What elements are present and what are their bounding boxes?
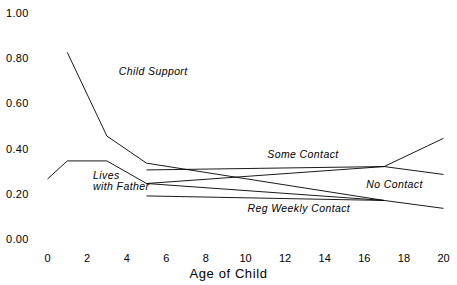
x-tick-label: 4: [124, 252, 130, 264]
y-tick-label: 0.80: [6, 52, 29, 64]
y-tick-label: 1.00: [6, 7, 29, 19]
x-tick-label: 6: [163, 252, 169, 264]
x-tick-label: 0: [44, 252, 50, 264]
chart-plot-area: [0, 0, 457, 285]
series-annotation: Lives: [93, 169, 120, 181]
x-tick-label: 14: [319, 252, 331, 264]
y-tick-label: 0.60: [6, 97, 29, 109]
series-annotation: with Father: [93, 180, 149, 192]
series-annotation: Reg Weekly Contact: [247, 202, 350, 214]
series-annotation: No Contact: [366, 178, 423, 190]
x-tick-label: 2: [84, 252, 90, 264]
x-tick-label: 10: [239, 252, 251, 264]
x-axis-title: Age of Child: [0, 266, 457, 281]
series-annotation: Child Support: [119, 65, 188, 77]
y-tick-label: 0.20: [6, 188, 29, 200]
x-tick-label: 16: [358, 252, 370, 264]
x-tick-label: 12: [279, 252, 291, 264]
y-tick-label: 0.40: [6, 143, 29, 155]
x-tick-label: 8: [203, 252, 209, 264]
x-tick-label: 18: [398, 252, 410, 264]
series-annotation: Some Contact: [267, 148, 338, 160]
x-tick-label: 20: [437, 252, 449, 264]
y-tick-label: 0.00: [6, 233, 29, 245]
chart-container: 0.000.200.400.600.801.00 024681012141618…: [0, 0, 457, 285]
